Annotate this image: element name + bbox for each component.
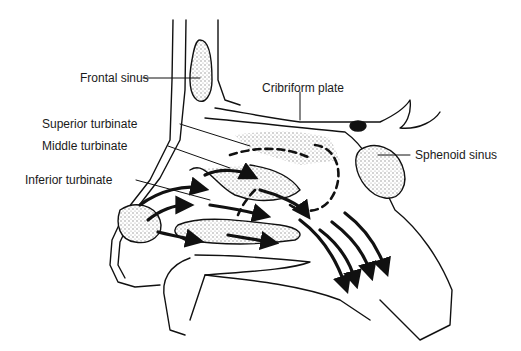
frontal-sinus-shape	[190, 40, 212, 101]
label-middle-turbinate: Middle turbinate	[42, 139, 127, 153]
label-sphenoid-sinus: Sphenoid sinus	[415, 148, 497, 162]
label-frontal-sinus: Frontal sinus	[80, 71, 149, 85]
label-superior-turbinate: Superior turbinate	[42, 117, 137, 131]
label-cribriform-plate: Cribriform plate	[262, 81, 344, 95]
nasal-anatomy-diagram: Frontal sinus Cribriform plate Superior …	[0, 0, 521, 351]
sphenoid-sinus-shape	[356, 146, 405, 199]
label-inferior-turbinate: Inferior turbinate	[25, 173, 112, 187]
